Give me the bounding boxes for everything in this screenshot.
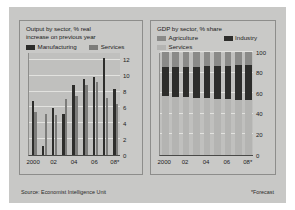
- y-axis-tick-label: 6: [123, 105, 126, 111]
- legend-swatch-services-gdp: [157, 45, 166, 50]
- x-axis-tick-label: 2000: [22, 159, 44, 165]
- segment-services: [204, 98, 211, 155]
- y-axis-tick-label: 12: [123, 57, 130, 63]
- y-axis-tick-label: 80: [256, 70, 263, 76]
- stacked-bar-01: [172, 52, 179, 155]
- plot-area-gdp: [159, 53, 253, 156]
- legend-gdp-row-2: Services: [157, 43, 192, 50]
- segment-industry: [245, 65, 252, 100]
- bar-services-06: [96, 82, 98, 155]
- stacked-bar-07: [235, 52, 242, 155]
- segment-industry: [162, 67, 169, 96]
- chart-panel-output-by-sector: Output by sector, % real increase on pre…: [19, 20, 143, 175]
- bar-services-07: [106, 98, 108, 155]
- legend-swatch-industry: [224, 36, 233, 41]
- y-axis-tick-label: 10: [123, 73, 130, 79]
- segment-services: [193, 98, 200, 155]
- legend-gdp-row-1: Agriculture Industry: [157, 34, 257, 41]
- segment-services: [235, 100, 242, 155]
- stacked-bar-06: [225, 52, 232, 155]
- chart-title-line-1: Output by sector, % real: [26, 25, 141, 33]
- segment-industry: [193, 67, 200, 98]
- chart-panel-gdp-by-sector: GDP by sector, % share Agriculture Indus…: [150, 20, 276, 175]
- segment-services: [245, 100, 252, 155]
- segment-agriculture: [225, 52, 232, 66]
- x-axis-tick-label: 04: [195, 159, 217, 165]
- y-axis-tick-label: 8: [123, 89, 126, 95]
- bar-services-01: [45, 114, 47, 155]
- bar-services-2000: [34, 112, 36, 155]
- stacked-bar-2000: [162, 52, 169, 155]
- source-note: Source: Economist Intelligence Unit: [21, 189, 106, 195]
- y-axis-tick-label: 4: [123, 121, 126, 127]
- legend-label-services: Services: [101, 43, 125, 50]
- legend-label-industry: Industry: [235, 34, 257, 41]
- segment-agriculture: [162, 52, 169, 67]
- plot-area-output: [28, 53, 120, 156]
- stacked-bar-05: [214, 52, 221, 155]
- segment-industry: [225, 66, 232, 99]
- chart-title-gdp: GDP by sector, % share: [157, 25, 272, 33]
- segment-agriculture: [245, 52, 252, 65]
- legend-item-services: Services: [89, 43, 124, 50]
- bar-services-03: [65, 99, 67, 155]
- segment-services: [214, 99, 221, 155]
- segment-agriculture: [172, 52, 179, 67]
- chart-title-output: Output by sector, % real increase on pre…: [26, 25, 141, 40]
- y-axis-tick-label: 0: [256, 153, 259, 159]
- bar-services-05: [85, 85, 87, 155]
- segment-services: [225, 99, 232, 155]
- legend-item-agriculture: Agriculture: [157, 34, 198, 41]
- legend-item-industry: Industry: [224, 34, 258, 41]
- legend-label-services-gdp: Services: [169, 43, 193, 50]
- legend-output: Manufacturing Services: [26, 43, 124, 50]
- segment-services: [172, 97, 179, 155]
- x-axis-tick-label: 08*: [237, 159, 259, 165]
- bar-services-08*: [116, 104, 118, 155]
- x-axis-tick-label: 02: [174, 159, 196, 165]
- segment-industry: [204, 66, 211, 98]
- bar-services-02: [55, 115, 57, 155]
- y-axis-tick-label: 60: [256, 91, 263, 97]
- stacked-bar-04: [204, 52, 211, 155]
- legend-item-manufacturing: Manufacturing: [26, 43, 77, 50]
- chart-title-line-2: increase on previous year: [26, 33, 141, 41]
- gridline: [29, 75, 120, 76]
- y-axis-tick-label: 0: [123, 153, 126, 159]
- forecast-note: *Forecast: [251, 189, 274, 195]
- stacked-bar-03: [193, 52, 200, 155]
- segment-agriculture: [193, 52, 200, 67]
- bar-services-04: [75, 96, 77, 155]
- x-axis-tick-label: 02: [43, 159, 65, 165]
- segment-agriculture: [214, 52, 221, 66]
- x-axis-tick-label: 06: [216, 159, 238, 165]
- segment-services: [183, 97, 190, 155]
- segment-agriculture: [183, 52, 190, 67]
- y-axis-tick-label: 100: [256, 50, 266, 56]
- segment-services: [162, 96, 169, 155]
- x-axis-tick-label: 04: [63, 159, 85, 165]
- y-axis-tick-label: 40: [256, 111, 263, 117]
- x-axis-tick-label: 2000: [153, 159, 175, 165]
- legend-swatch-manufacturing: [26, 45, 35, 50]
- gridline: [29, 59, 120, 60]
- segment-industry: [172, 67, 179, 97]
- y-axis-tick-label: 2: [123, 137, 126, 143]
- legend-label-manufacturing: Manufacturing: [38, 43, 77, 50]
- legend-item-services-gdp: Services: [157, 43, 192, 50]
- segment-industry: [214, 66, 221, 99]
- legend-swatch-agriculture: [157, 36, 166, 41]
- segment-industry: [183, 67, 190, 97]
- y-axis-tick-label: 20: [256, 132, 263, 138]
- legend-swatch-services: [89, 45, 98, 50]
- x-axis-tick-label: 08*: [104, 159, 126, 165]
- stacked-bar-08*: [245, 52, 252, 155]
- segment-agriculture: [204, 52, 211, 66]
- legend-label-agriculture: Agriculture: [169, 34, 199, 41]
- figure-container: Output by sector, % real increase on pre…: [9, 7, 286, 203]
- stacked-bar-02: [183, 52, 190, 155]
- x-axis-tick-label: 06: [83, 159, 105, 165]
- segment-industry: [235, 65, 242, 100]
- segment-agriculture: [235, 52, 242, 65]
